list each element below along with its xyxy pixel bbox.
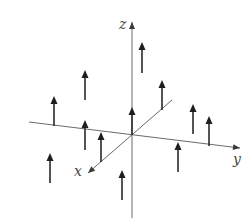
vector-arrow — [51, 96, 58, 126]
arrowhead-icon — [47, 153, 54, 161]
vector-arrow — [129, 107, 136, 135]
y-axis-label: y — [232, 151, 242, 167]
arrowhead-icon — [129, 107, 136, 115]
arrowhead-icon — [206, 116, 213, 124]
vector-arrows — [47, 42, 213, 200]
x-axis-label: x — [74, 163, 82, 179]
arrowhead-icon — [98, 132, 105, 140]
vector-arrow — [175, 142, 182, 172]
vector-arrow — [82, 70, 89, 100]
vector-arrow — [159, 80, 166, 110]
arrowhead-icon — [159, 80, 166, 88]
arrowhead-icon — [82, 120, 89, 128]
arrowhead-icon — [51, 96, 58, 104]
vector-arrow — [206, 116, 213, 146]
y-axis-arrowhead-icon — [233, 144, 240, 150]
arrowhead-icon — [190, 104, 197, 112]
arrowhead-icon — [175, 142, 182, 150]
arrowhead-icon — [139, 42, 146, 50]
vector-arrow — [47, 153, 54, 183]
arrowhead-icon — [82, 70, 89, 78]
vector-arrow — [98, 132, 105, 162]
z-axis-arrowhead-icon — [129, 22, 135, 29]
vector-arrow — [119, 170, 126, 200]
vector-field-diagram: z y x — [0, 0, 251, 218]
vector-arrow — [139, 42, 146, 73]
axis-labels: z y x — [74, 16, 242, 179]
vector-arrow — [82, 120, 89, 150]
arrowhead-icon — [119, 170, 126, 178]
vector-arrow — [190, 104, 197, 134]
z-axis-label: z — [118, 16, 127, 32]
